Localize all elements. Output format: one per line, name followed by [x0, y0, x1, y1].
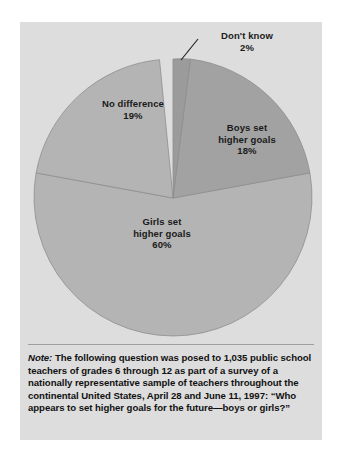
pie-label-no-difference: No difference 19% — [78, 98, 188, 121]
pie-label-boys-set-higher-goals: Boys set higher goals 18% — [192, 122, 302, 157]
note-body: The following question was posed to 1,03… — [28, 352, 311, 413]
pie-label-girls-line2: higher goals — [102, 228, 222, 240]
pie-label-girls-value: 60% — [102, 239, 222, 251]
pie-chart-svg — [20, 22, 322, 342]
pie-chart-area: Don't know 2% No difference 19% Boys set… — [20, 22, 322, 342]
pie-label-dont-know-value: 2% — [192, 42, 302, 54]
pie-label-no-difference-value: 19% — [78, 110, 188, 122]
pie-label-girls-set-higher-goals: Girls set higher goals 60% — [102, 216, 222, 251]
figure-card: Don't know 2% No difference 19% Boys set… — [20, 22, 322, 440]
pie-label-girls-line1: Girls set — [102, 216, 222, 228]
note-label: Note: — [28, 352, 52, 363]
cropped-caption-remnant — [18, 0, 138, 9]
pie-label-dont-know: Don't know 2% — [192, 30, 302, 53]
pie-label-boys-line1: Boys set — [192, 122, 302, 134]
pie-label-boys-value: 18% — [192, 145, 302, 157]
note-divider — [28, 344, 314, 345]
figure-note: Note: The following question was posed t… — [28, 352, 316, 415]
pie-label-boys-line2: higher goals — [192, 134, 302, 146]
pie-label-no-difference-name: No difference — [78, 98, 188, 110]
pie-label-dont-know-name: Don't know — [192, 30, 302, 42]
